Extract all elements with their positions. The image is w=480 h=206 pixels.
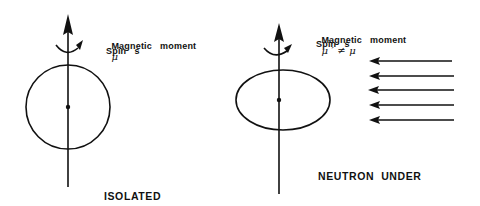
left-caption: ISOLATED NEUTRON	[104, 156, 161, 206]
isolated-neutron-figure	[26, 14, 110, 187]
right-spin-label: Spin s	[316, 39, 350, 49]
center-dot	[66, 105, 70, 109]
rotation-arrow-icon	[264, 48, 287, 55]
right-caption: NEUTRON UNDER INTENSE EXTERNAL FIELDS	[318, 136, 436, 206]
left-spin-label: Spin s	[106, 46, 140, 56]
rotation-arrow-icon	[56, 45, 78, 52]
caption-line: NEUTRON UNDER	[318, 168, 436, 184]
caption-line: ISOLATED	[104, 188, 161, 204]
center-dot	[277, 98, 281, 102]
external-field-arrows	[368, 57, 454, 124]
deformed-neutron-ellipse	[236, 70, 330, 130]
spin-axis-arrowhead-icon	[63, 14, 73, 35]
